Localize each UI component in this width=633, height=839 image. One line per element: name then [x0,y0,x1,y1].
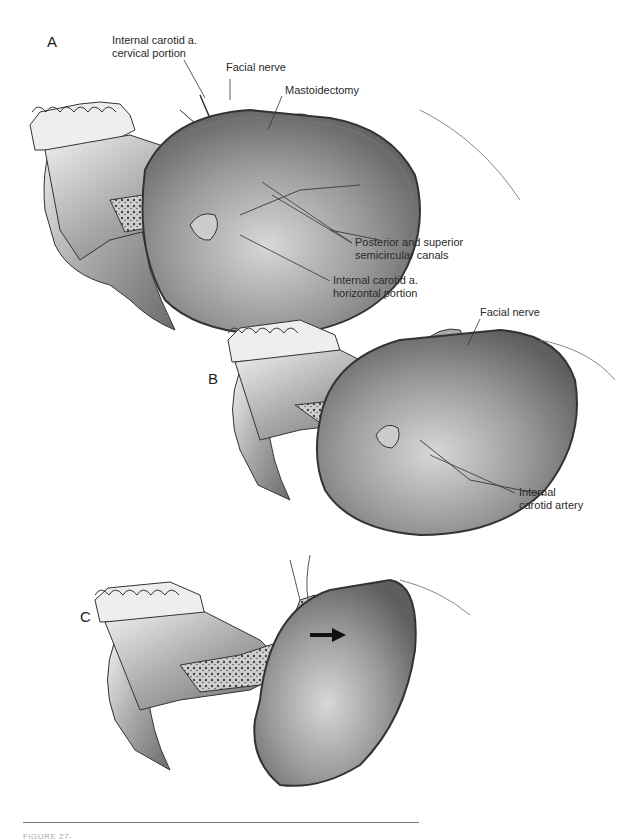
label-semicircular-line1: Posterior and superior [355,236,463,249]
label-ica-horizontal-line1: Internal carotid a. [333,274,418,287]
label-semicircular-line2: semicircular canals [355,249,463,262]
panel-c-letter: C [80,608,91,625]
label-ica-cervical: Internal carotid a. cervical portion [112,34,197,60]
label-semicircular-canals: Posterior and superior semicircular cana… [355,236,463,262]
label-mastoidectomy: Mastoidectomy [285,84,359,97]
panel-b-letter: B [208,370,218,387]
anatomical-illustration [0,0,633,839]
label-ica-line2: carotid artery [519,499,583,512]
panel-a-letter: A [47,33,57,50]
label-facial-nerve-b: Facial nerve [480,306,540,319]
label-ica-cervical-line2: cervical portion [112,47,197,60]
label-ica-horizontal: Internal carotid a. horizontal portion [333,274,418,300]
label-ica-line1: Internal [519,486,583,499]
label-ica-cervical-line1: Internal carotid a. [112,34,197,47]
label-ica-horizontal-line2: horizontal portion [333,287,418,300]
caption-divider [23,822,419,823]
panel-c-drawing [95,555,470,786]
panel-a-drawing [30,95,520,335]
figure-caption: FIGURE 27- [23,832,72,839]
label-facial-nerve-a: Facial nerve [226,61,286,74]
label-internal-carotid-artery: Internal carotid artery [519,486,583,512]
